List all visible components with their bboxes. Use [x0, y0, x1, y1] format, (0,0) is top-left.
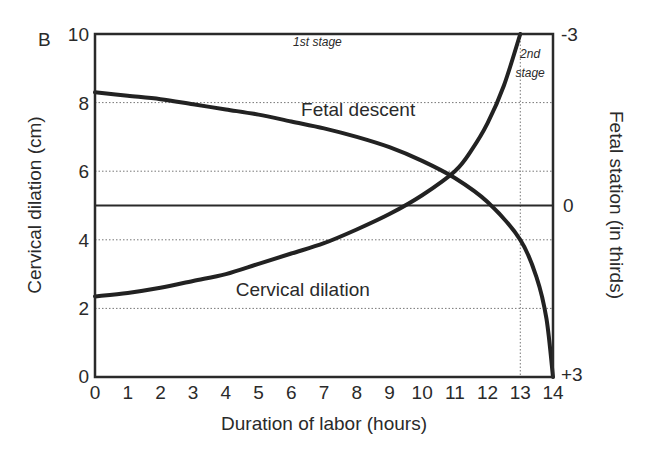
x-tick-label: 9	[384, 382, 395, 403]
y-tick-label: 4	[78, 230, 89, 251]
y-tick-label: 8	[78, 93, 89, 114]
x-tick-label: 11	[445, 382, 465, 403]
cervical-dilation-curve	[95, 34, 520, 296]
x-tick-label: 6	[286, 382, 297, 403]
right-tick-label: +3	[561, 364, 583, 385]
x-tick-label: 0	[90, 382, 101, 403]
x-tick-label: 10	[412, 382, 433, 403]
x-tick-label: 4	[221, 382, 232, 403]
x-axis-ticks: 01234567891011121314	[90, 382, 564, 403]
x-tick-label: 5	[253, 382, 264, 403]
fetal-descent-label: Fetal descent	[301, 99, 416, 120]
panel-label: B	[38, 29, 51, 50]
x-tick-label: 1	[122, 382, 133, 403]
y-tick-label: 0	[78, 366, 89, 387]
right-axis-title: Fetal station (in thirds)	[606, 111, 627, 299]
x-tick-label: 12	[477, 382, 498, 403]
y-tick-label: 2	[78, 298, 89, 319]
x-tick-label: 7	[319, 382, 330, 403]
labor-progress-chart: B 01234567891011121314 0246810 -30+3 1st…	[0, 0, 652, 463]
stage-label: 2nd	[519, 47, 540, 61]
y-tick-label: 10	[68, 24, 89, 45]
x-tick-label: 3	[188, 382, 199, 403]
stage-label: 1st stage	[293, 35, 342, 49]
right-tick-label: -3	[561, 24, 578, 45]
y-axis-ticks: 0246810	[68, 24, 90, 387]
right-axis-ticks: -30+3	[561, 24, 583, 385]
y-axis-title: Cervical dilation (cm)	[24, 116, 45, 293]
right-tick-label: 0	[563, 195, 574, 216]
x-tick-label: 2	[155, 382, 166, 403]
x-tick-label: 13	[510, 382, 531, 403]
y-tick-label: 6	[78, 161, 89, 182]
x-tick-label: 14	[542, 382, 564, 403]
cervical-dilation-label: Cervical dilation	[236, 279, 370, 300]
x-tick-label: 8	[351, 382, 362, 403]
x-axis-title: Duration of labor (hours)	[221, 413, 427, 434]
fetal-descent-curve	[95, 92, 553, 377]
stage-label: stage	[515, 66, 545, 80]
